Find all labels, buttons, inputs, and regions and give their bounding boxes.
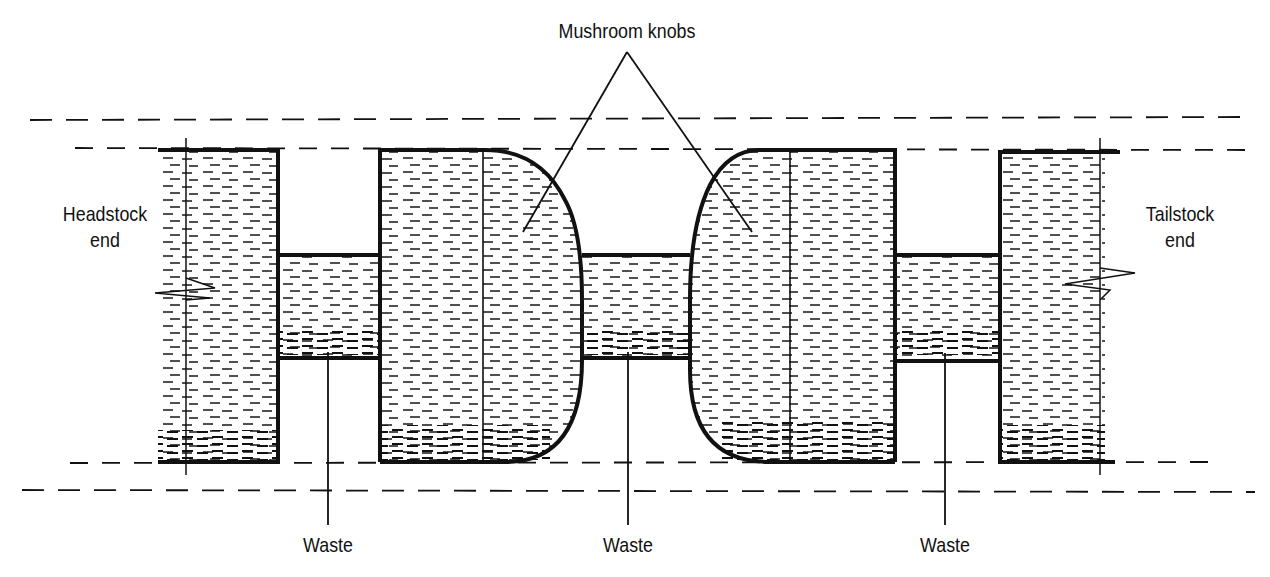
tailstock-end-label: Tailstock end: [1129, 201, 1231, 253]
waste-section-2: [582, 255, 690, 360]
mushroom-knob-left: [380, 150, 582, 462]
mushroom-knobs-label: Mushroom knobs: [542, 18, 712, 44]
tailstock-end-block: [1000, 138, 1120, 475]
headstock-line2: end: [50, 227, 161, 253]
tailstock-line1: Tailstock: [1129, 201, 1231, 227]
waste-section-1: [278, 255, 380, 360]
leader-knob-left: [523, 52, 627, 232]
headstock-line1: Headstock: [50, 201, 161, 227]
waste-section-3: [895, 255, 1000, 363]
waste-label-1: Waste: [286, 532, 371, 558]
stock-outline-bottom: [22, 490, 1255, 492]
headstock-end-block: [158, 138, 278, 475]
mushroom-knob-right: [690, 150, 895, 462]
leader-knob-right: [627, 52, 752, 232]
lathe-turning-diagram: [0, 0, 1270, 577]
headstock-end-label: Headstock end: [50, 201, 161, 253]
stock-outline-top: [30, 117, 1250, 120]
waste-label-2: Waste: [586, 532, 671, 558]
waste-label-3: Waste: [903, 532, 988, 558]
tailstock-line2: end: [1129, 227, 1231, 253]
